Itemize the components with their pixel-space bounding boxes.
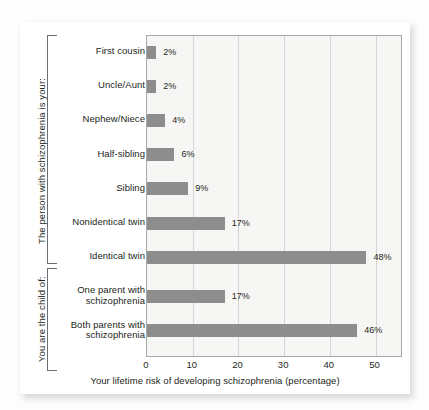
bar-value-label: 48%: [373, 251, 391, 264]
figure-page: The person with schizophrenia is your: Y…: [0, 0, 429, 410]
bar: [147, 251, 366, 264]
x-tick-label-50: 50: [369, 359, 380, 370]
bar: [147, 290, 225, 303]
category-label: Half-sibling: [60, 149, 145, 160]
gridline-30: [284, 36, 285, 356]
gridline-10: [193, 36, 194, 356]
bar: [147, 114, 165, 127]
bar-value-label: 9%: [195, 182, 208, 195]
bar: [147, 148, 174, 161]
category-label: First cousin: [60, 46, 145, 57]
category-label: Both parents withschizophrenia: [60, 320, 145, 341]
bar: [147, 182, 188, 195]
bar: [147, 217, 225, 230]
category-label: Uncle/Aunt: [60, 80, 145, 91]
gridline-20: [238, 36, 239, 356]
group-caption-child: You are the child of:: [36, 276, 47, 362]
bar: [147, 324, 357, 337]
x-axis-title: Your lifetime risk of developing schizop…: [20, 375, 410, 386]
group-bracket-person: [47, 35, 57, 264]
bar-value-label: 6%: [181, 148, 194, 161]
group-caption-person: The person with schizophrenia is your:: [36, 78, 47, 244]
x-axis: 01020304050: [146, 357, 402, 373]
bar: [147, 80, 156, 93]
bar-value-label: 2%: [163, 80, 176, 93]
bar-value-label: 17%: [232, 217, 250, 230]
x-tick-label-40: 40: [324, 359, 335, 370]
gridline-40: [330, 36, 331, 356]
category-label-column: First cousinUncle/AuntNephew/NieceHalf-s…: [60, 35, 145, 357]
figure-card: The person with schizophrenia is your: Y…: [20, 22, 410, 394]
x-tick-label-20: 20: [232, 359, 243, 370]
category-label: Nonidentical twin: [60, 217, 145, 228]
group-bracket-child: [47, 268, 57, 371]
bar-value-label: 46%: [364, 324, 382, 337]
x-tick-label-10: 10: [186, 359, 197, 370]
category-label: Sibling: [60, 183, 145, 194]
bar-value-label: 2%: [163, 46, 176, 59]
gridline-50: [376, 36, 377, 356]
category-label: Identical twin: [60, 251, 145, 262]
bar: [147, 46, 156, 59]
x-tick-label-30: 30: [278, 359, 289, 370]
bar-chart-figure: The person with schizophrenia is your: Y…: [20, 22, 410, 394]
bar-value-label: 17%: [232, 290, 250, 303]
category-label: Nephew/Niece: [60, 114, 145, 125]
category-label: One parent withschizophrenia: [60, 285, 145, 306]
bar-value-label: 4%: [172, 114, 185, 127]
plot-area: 2%2%4%6%9%17%48%17%46%: [146, 35, 402, 357]
x-tick-label-0: 0: [143, 359, 148, 370]
